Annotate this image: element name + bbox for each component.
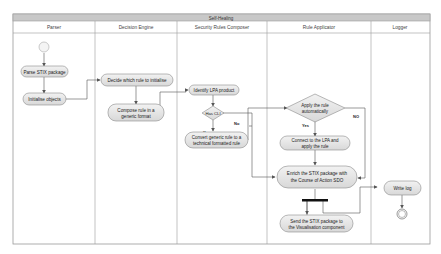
- lane-title-logger: Logger: [393, 25, 408, 30]
- node-label: apply the rule: [301, 144, 329, 149]
- node-compose-rule: Compose rule in a generic format: [108, 104, 164, 121]
- label-yes: Yes: [302, 123, 310, 128]
- node-label: the Visualisation component: [288, 225, 345, 230]
- node-label: Write log: [393, 186, 411, 191]
- node-label: generic format: [121, 114, 151, 119]
- node-label: Convert generic rule to a: [192, 135, 242, 140]
- node-convert-rule: Convert generic rule to a technical form…: [185, 132, 248, 148]
- node-parse-stix: Parse STIX package: [21, 66, 68, 77]
- fork-bar: [302, 199, 328, 202]
- node-label: Enrich the STIX package with: [287, 171, 348, 176]
- label-no: No: [234, 121, 240, 126]
- node-identify-lpa: Identify LPA product: [189, 85, 239, 95]
- node-label: the Course of Action SDO: [291, 178, 344, 183]
- lane-title-decision-engine: Decision Engine: [119, 25, 154, 30]
- node-label: Identify LPA product: [194, 88, 235, 93]
- node-label: automatically: [302, 109, 329, 114]
- lane-title-rule-applicator: Rule Applicator: [303, 25, 336, 30]
- node-write-log: Write log: [384, 181, 421, 195]
- end-node: [397, 209, 407, 219]
- node-label: Initialise objects: [28, 97, 61, 102]
- node-connect-lpa: Connect to the LPA and apply the rule: [280, 136, 350, 150]
- pool-frame: Self-Healing: [13, 14, 430, 244]
- label-no: NO: [353, 114, 359, 119]
- node-label: Decide which rule to initialise: [108, 78, 167, 83]
- node-label: Connect to the LPA and: [291, 138, 339, 143]
- node-enrich-stix: Enrich the STIX package with the Course …: [277, 166, 357, 188]
- node-decide-rule: Decide which rule to initialise: [101, 74, 173, 86]
- node-send-stix: Send the STIX package to the Visualisati…: [280, 215, 353, 232]
- node-initialise-objects: Initialise objects: [23, 93, 66, 105]
- pool-title: Self-Healing: [209, 16, 234, 21]
- lane-title-parser: Parser: [47, 25, 62, 30]
- node-label: Has CLI: [205, 111, 220, 116]
- node-label: Apply the rule: [301, 103, 329, 108]
- lane-title-security-rules-composer: Security Rules Composer: [195, 25, 250, 30]
- swimlane-diagram: Self-Healing Parser Decision Engine Secu…: [0, 0, 441, 254]
- node-label: Parse STIX package: [23, 70, 66, 75]
- node-label: Compose rule in a: [117, 108, 155, 113]
- start-node: [39, 42, 49, 52]
- node-label: technical formatted rule: [193, 141, 240, 146]
- node-label: Send the STIX package to: [290, 219, 343, 224]
